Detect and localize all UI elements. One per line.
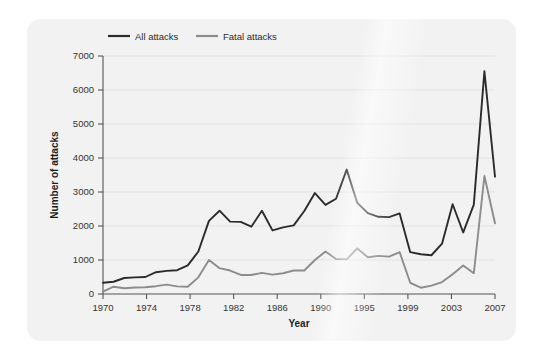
y-axis: 01000200030004000500060007000: [73, 50, 103, 299]
x-tick-label: 1978: [180, 302, 201, 313]
series-line: [103, 176, 495, 292]
x-tick-label: 1974: [136, 302, 157, 313]
line-chart: 0100020003000400050006000700019701974197…: [0, 0, 542, 359]
x-tick-label: 1986: [267, 302, 288, 313]
legend-label: All attacks: [135, 31, 179, 42]
chart-page: 0100020003000400050006000700019701974197…: [0, 0, 542, 359]
x-tick-label: 1999: [397, 302, 418, 313]
y-gridlines: [103, 56, 495, 260]
y-tick-label: 3000: [73, 186, 94, 197]
x-tick-label: 1990: [310, 302, 331, 313]
y-tick-label: 6000: [73, 84, 94, 95]
y-tick-label: 0: [89, 288, 94, 299]
x-axis-title: Year: [288, 318, 309, 329]
legend-label: Fatal attacks: [223, 31, 277, 42]
x-tick-label: 2003: [441, 302, 462, 313]
y-tick-label: 2000: [73, 220, 94, 231]
y-tick-label: 4000: [73, 152, 94, 163]
x-tick-label: 1970: [92, 302, 113, 313]
y-axis-title: Number of attacks: [49, 131, 60, 219]
series-line: [103, 71, 495, 282]
x-tick-label: 2007: [484, 302, 505, 313]
x-tick-label: 1982: [223, 302, 244, 313]
series-group: [103, 71, 495, 291]
x-tick-label: 1995: [354, 302, 375, 313]
y-tick-label: 7000: [73, 50, 94, 61]
y-tick-label: 1000: [73, 254, 94, 265]
x-axis: 1970197419781982198619901995199920032007: [92, 294, 505, 313]
y-tick-label: 5000: [73, 118, 94, 129]
legend: All attacksFatal attacks: [108, 31, 277, 42]
